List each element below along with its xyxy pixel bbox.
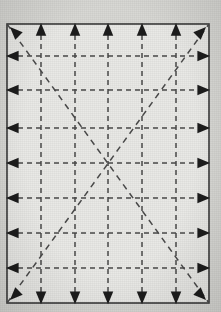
grid-diagram [0,0,221,312]
